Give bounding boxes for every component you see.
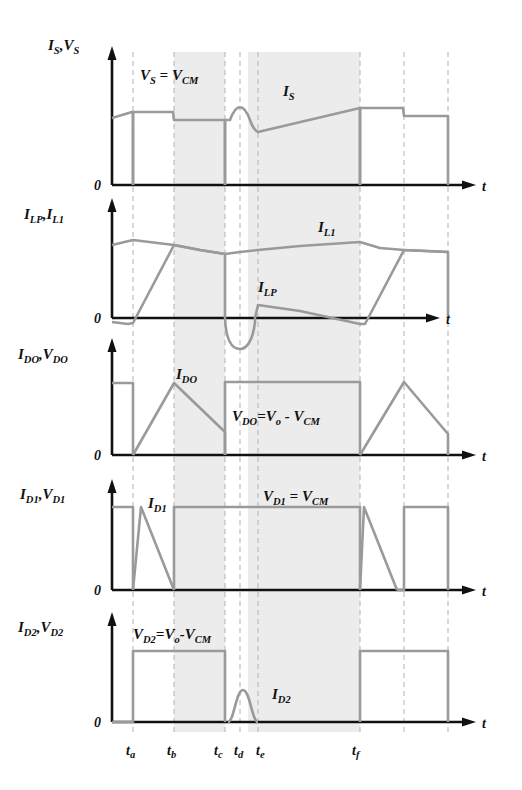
panel1-t-axis-label: t [482, 179, 487, 194]
time-tick-labels: ta tb tc td te tf [126, 743, 361, 760]
panel3-t-axis-label: t [482, 449, 487, 464]
waveform-diagram: IS,VS 0 t VS = VCM IS ILP,IL1 0 t IL1 IL… [0, 0, 522, 790]
panel3-zero-label: 0 [94, 448, 101, 463]
panel4-zero-label: 0 [94, 583, 101, 598]
tick-label-tc: tc [214, 743, 223, 760]
panel4-t-axis-label: t [482, 584, 487, 599]
panel1-y-label: IS,VS [47, 37, 79, 56]
panel2-y-label: ILP,IL1 [23, 206, 64, 225]
tick-label-tf: tf [352, 743, 361, 760]
panel1-zero-label: 0 [94, 178, 101, 193]
panel2-t-axis-label: t [446, 312, 451, 327]
tick-label-tb: tb [167, 743, 176, 760]
tick-label-td: td [234, 743, 244, 760]
panel2-zero-label: 0 [94, 311, 101, 326]
panel5-t-axis-label: t [482, 716, 487, 731]
tick-label-te: te [256, 743, 265, 760]
tick-label-ta: ta [126, 743, 135, 760]
panel4-y-label: ID1,VD1 [19, 486, 65, 505]
panel5-y-label: ID2,VD2 [17, 619, 64, 638]
shaded-bands [174, 52, 360, 732]
panel3-y-label: IDO,VDO [17, 346, 68, 365]
panel5-zero-label: 0 [94, 715, 101, 730]
annotation-id1-name: ID1 [147, 495, 167, 514]
panel-ilp-il1: ILP,IL1 0 t IL1 ILP [23, 198, 451, 349]
